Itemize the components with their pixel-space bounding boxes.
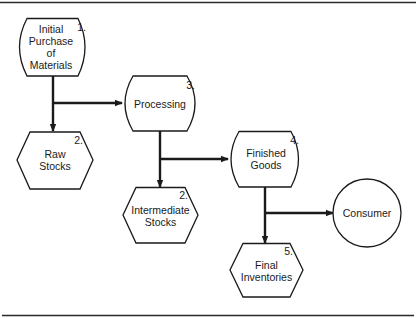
- node-label-line: Stocks: [39, 160, 71, 172]
- node-number: 4.: [290, 134, 299, 146]
- node-label-line: Finished: [246, 147, 286, 159]
- node-number: 1.: [77, 21, 86, 33]
- node-label-line: Raw: [44, 148, 65, 160]
- node-finished-goods: 4. Finished Goods: [231, 132, 299, 188]
- node-label-line: Inventories: [241, 271, 292, 283]
- node-processing: 3. Processing: [125, 76, 195, 131]
- node-number: 5.: [284, 245, 293, 257]
- node-label-line: Final: [255, 259, 278, 271]
- node-label-line: Consumer: [343, 207, 392, 219]
- node-label-line: Initial: [39, 23, 64, 35]
- node-consumer: Consumer: [333, 179, 401, 247]
- node-number: 2.: [179, 189, 188, 201]
- node-label-line: Goods: [251, 159, 282, 171]
- node-raw-stocks: 2. Raw Stocks: [17, 132, 93, 189]
- node-label-line: Materials: [30, 59, 73, 71]
- node-intermediate-stocks: 2. Intermediate Stocks: [123, 188, 198, 244]
- node-number: 2.: [74, 134, 83, 146]
- flowchart-diagram: 1. Initial Purchase of Materials 2. Raw …: [0, 0, 416, 318]
- node-label-line: Stocks: [145, 216, 177, 228]
- node-label-line: of: [47, 47, 56, 59]
- node-label-line: Purchase: [29, 35, 74, 47]
- node-number: 3.: [186, 79, 195, 91]
- node-final-inventories: 5. Final Inventories: [230, 244, 303, 298]
- node-initial-purchase: 1. Initial Purchase of Materials: [20, 19, 87, 77]
- node-label-line: Intermediate: [131, 204, 190, 216]
- node-label-line: Processing: [134, 98, 186, 110]
